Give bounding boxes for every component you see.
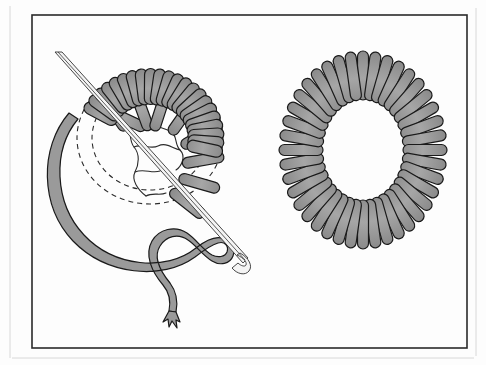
frayed-thread-end: [163, 311, 180, 328]
completed-eyelet: [279, 51, 447, 249]
illustration-page: [0, 0, 486, 365]
eyelet-in-progress: [47, 52, 250, 328]
stitch-diagram-svg: [0, 0, 486, 365]
